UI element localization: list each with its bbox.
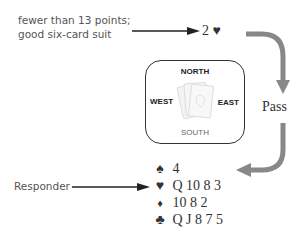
heart-cards: Q 10 8 3 [173, 178, 222, 193]
bid-to-pass-arrow [246, 34, 283, 82]
hand-row-diamonds: ♦ 10 8 2 [151, 194, 223, 211]
seat-west: WEST [150, 97, 173, 106]
bid-annotation: fewer than 13 points; good six-card suit [18, 13, 131, 41]
annotation-line-1: fewer than 13 points; [18, 13, 131, 27]
heart-icon: ♥ [151, 177, 169, 194]
club-icon: ♣ [151, 211, 169, 228]
responder-label: Responder [14, 180, 70, 192]
annotation-line-2: good six-card suit [18, 27, 131, 41]
hand-row-hearts: ♥ Q 10 8 3 [151, 177, 223, 194]
pass-to-hand-arrow [250, 123, 283, 170]
seat-east: EAST [218, 98, 239, 107]
opening-bid: 2 ♥ [202, 23, 221, 39]
diamond-icon: ♦ [151, 195, 169, 212]
response-pass: Pass [262, 99, 287, 115]
card-fan-icon [176, 79, 216, 125]
spade-icon: ♠ [151, 160, 169, 177]
annotation-arrowhead [187, 27, 200, 35]
bid-to-pass-arrowhead [276, 80, 290, 94]
pass-to-hand-arrowhead [236, 163, 251, 177]
responder-arrowhead [137, 183, 150, 191]
seat-south: SOUTH [146, 128, 244, 137]
responder-hand: ♠ 4 ♥ Q 10 8 3 ♦ 10 8 2 ♣ Q J 8 7 5 [151, 160, 223, 228]
hand-row-spades: ♠ 4 [151, 160, 223, 177]
club-cards: Q J 8 7 5 [173, 212, 224, 227]
hand-row-clubs: ♣ Q J 8 7 5 [151, 211, 223, 228]
bridge-table: NORTH WEST EAST SOUTH [145, 60, 245, 144]
seat-north: NORTH [146, 67, 244, 76]
spade-cards: 4 [173, 161, 180, 176]
diamond-cards: 10 8 2 [173, 195, 208, 210]
